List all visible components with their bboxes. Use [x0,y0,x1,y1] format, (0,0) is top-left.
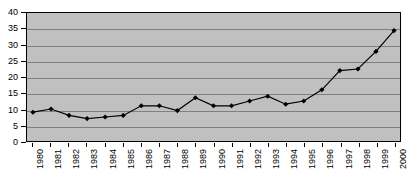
data-point-1993 [265,94,270,99]
data-point-1990 [211,103,216,108]
x-tick-label-1992: 1992 [254,149,263,169]
data-point-1983 [85,116,90,121]
x-tick-label-1989: 1989 [199,149,208,169]
x-tick-label-1996: 1996 [326,149,335,169]
y-tick-label-20: 20 [8,73,18,82]
x-tick-label-1995: 1995 [308,149,317,169]
series-line-group [27,13,400,141]
x-tick-label-1991: 1991 [236,149,245,169]
x-tick-mark-1998 [359,143,360,147]
data-point-1982 [66,113,71,118]
y-tick-label-25: 25 [8,57,18,66]
x-tick-label-1982: 1982 [72,149,81,169]
y-tick-label-0: 0 [13,138,18,147]
x-tick-label-1987: 1987 [163,149,172,169]
x-tick-mark-1999 [377,143,378,147]
x-tick-mark-1981 [50,143,51,147]
x-tick-mark-2000 [395,143,396,147]
x-tick-mark-1986 [141,143,142,147]
x-tick-mark-1990 [214,143,215,147]
y-tick-label-15: 15 [8,89,18,98]
x-tick-mark-1991 [232,143,233,147]
x-tick-label-1994: 1994 [290,149,299,169]
x-tick-mark-1994 [286,143,287,147]
x-tick-mark-1985 [123,143,124,147]
x-tick-label-1983: 1983 [90,149,99,169]
data-point-1994 [283,102,288,107]
y-tick-label-5: 5 [13,122,18,131]
x-tick-label-1999: 1999 [381,149,390,169]
x-tick-label-1990: 1990 [218,149,227,169]
y-tick-label-35: 35 [8,24,18,33]
x-tick-label-1986: 1986 [145,149,154,169]
x-tick-label-1988: 1988 [181,149,190,169]
data-point-1986 [139,103,144,108]
x-tick-mark-1995 [304,143,305,147]
data-point-1980 [30,110,35,115]
data-point-1981 [48,106,53,111]
x-tick-label-2000: 2000 [399,149,408,169]
x-tick-mark-1989 [195,143,196,147]
x-tick-mark-1982 [68,143,69,147]
y-tick-label-40: 40 [8,8,18,17]
data-point-1985 [121,113,126,118]
y-tick-label-10: 10 [8,106,18,115]
data-point-1992 [247,98,252,103]
x-tick-mark-1980 [32,143,33,147]
x-tick-mark-1997 [341,143,342,147]
x-tick-mark-1996 [322,143,323,147]
x-tick-mark-1993 [268,143,269,147]
data-point-1984 [103,114,108,119]
x-axis: 1980198119821983198419851986198719881989… [26,143,401,175]
line-chart: 0510152025303540 19801981198219831984198… [0,0,418,175]
x-tick-mark-1987 [159,143,160,147]
x-tick-label-1997: 1997 [345,149,354,169]
data-point-1987 [157,103,162,108]
plot-area [26,12,401,142]
data-point-1991 [229,103,234,108]
x-tick-label-1993: 1993 [272,149,281,169]
x-tick-mark-1984 [105,143,106,147]
x-tick-label-1998: 1998 [363,149,372,169]
x-tick-label-1985: 1985 [127,149,136,169]
x-tick-label-1980: 1980 [36,149,45,169]
x-tick-label-1981: 1981 [54,149,63,169]
y-axis: 0510152025303540 [0,0,26,175]
x-tick-label-1984: 1984 [109,149,118,169]
y-tick-label-30: 30 [8,41,18,50]
x-tick-mark-1992 [250,143,251,147]
x-tick-mark-1983 [86,143,87,147]
x-tick-mark-1988 [177,143,178,147]
